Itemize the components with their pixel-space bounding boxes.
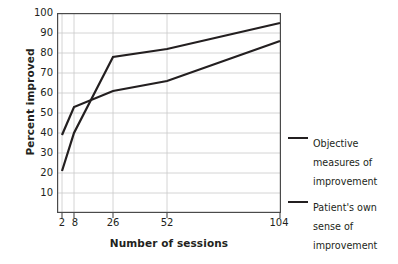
chart-figure: Percent improved 100 90 80 70 60 50 40 3… — [0, 0, 398, 264]
legend-label: Patient's own sense of improvement — [313, 202, 377, 251]
x-tick-label: 26 — [107, 217, 120, 228]
legend-line-swatch-icon — [288, 137, 308, 139]
x-axis-title: Number of sessions — [57, 237, 281, 249]
x-tick-label: 2 — [59, 217, 65, 228]
legend-line-swatch-icon — [288, 201, 308, 203]
legend-entry-objective: Objective measures of improvement — [288, 132, 398, 189]
legend-entry-patient: Patient's own sense of improvement — [288, 196, 398, 253]
x-tick-label: 8 — [72, 217, 78, 228]
x-tick-label: 104 — [269, 217, 288, 228]
legend-label: Objective measures of improvement — [313, 138, 377, 187]
chart-legend: Objective measures of improvement Patien… — [288, 132, 398, 260]
x-tick-label: 52 — [161, 217, 174, 228]
